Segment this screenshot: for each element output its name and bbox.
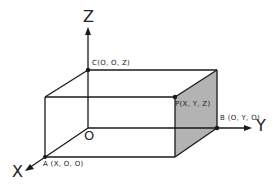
edge-top-left: [45, 70, 88, 97]
point-b-label: B (O, Y, O): [220, 115, 260, 122]
origin-label: O: [84, 129, 94, 142]
point-b: [215, 126, 219, 130]
z-arrow-icon: [85, 27, 91, 35]
point-c-label: C(O, O, Z): [92, 60, 130, 67]
point-p-label: P(X, Y, Z): [175, 101, 210, 108]
coordinate-diagram: [0, 0, 276, 186]
z-axis-label: Z: [83, 9, 94, 25]
point-a: [43, 155, 47, 159]
point-c: [86, 68, 90, 72]
x-axis-label: X: [12, 164, 23, 180]
point-p: [173, 95, 177, 99]
point-a-label: A (X, O, O): [43, 161, 84, 168]
y-arrow-icon: [244, 125, 252, 131]
